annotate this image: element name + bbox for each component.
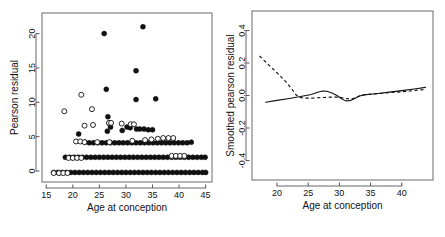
y-axis-tick-label: 20 [27, 29, 37, 39]
scatter-point-open [107, 140, 112, 145]
scatter-point-filled [150, 127, 155, 132]
scatter-point-filled [203, 155, 208, 160]
scatter-point-open [143, 138, 148, 143]
scatter-point-open [89, 107, 94, 112]
y-axis-tick-label: -0.2 [237, 120, 247, 136]
x-axis-tick-label: 35 [147, 190, 157, 200]
y-axis-tick-label: 15 [27, 63, 37, 73]
scatter-point-open [149, 137, 154, 142]
x-axis-tick-label: 20 [272, 188, 282, 198]
scatter-point-filled [105, 129, 110, 134]
scatter-point-open [62, 109, 67, 114]
y-axis-tick-label: 0.2 [237, 57, 247, 70]
scatter-point-filled [102, 31, 107, 36]
y-axis-tick-label: 0 [27, 169, 37, 174]
plot-frame [252, 11, 433, 180]
scatter-point-open [95, 140, 100, 145]
scatter-point-filled [134, 97, 139, 102]
scatter-point-open [82, 140, 87, 145]
scatter-point-open [166, 136, 171, 141]
y-axis-tick-label: 5 [27, 134, 37, 139]
scatter-point-open [131, 122, 136, 127]
curve-solid-smoother [266, 87, 426, 102]
scatter-point-open [171, 136, 176, 141]
y-axis-tick-label: 0.4 [237, 24, 247, 37]
y-axis-title: Smoothed pearson residual [225, 34, 236, 156]
figure-root: 15202530354045Age at conception05101520P… [0, 0, 445, 237]
scatter-series-filled [51, 24, 208, 175]
x-axis-tick-label: 40 [174, 190, 184, 200]
scatter-point-open [51, 171, 56, 176]
x-axis-tick-label: 40 [397, 188, 407, 198]
scatter-point-open [82, 123, 87, 128]
scatter-point-open [79, 155, 84, 160]
x-axis-tick-label: 45 [201, 190, 211, 200]
scatter-point-filled [203, 170, 208, 175]
scatter-point-filled [120, 128, 125, 133]
x-axis-tick-label: 30 [121, 190, 131, 200]
scatter-point-open [119, 121, 124, 126]
scatter-point-open [109, 120, 114, 125]
scatter-point-filled [140, 24, 145, 29]
scatter-point-filled [105, 114, 110, 119]
scatter-point-open [155, 136, 160, 141]
x-axis-title: Age at conception [87, 202, 167, 213]
scatter-point-open [65, 171, 70, 176]
x-axis-tick-label: 30 [334, 188, 344, 198]
scatter-point-open [182, 153, 187, 158]
scatter-point-filled [189, 140, 194, 145]
x-axis-tick-label: 15 [41, 190, 51, 200]
scatter-point-open [79, 92, 84, 97]
smoother-plot-svg: 2025303540Age at conception-0.4-0.20.00.… [222, 0, 445, 237]
x-axis-tick-label: 25 [303, 188, 313, 198]
x-axis-title: Age at conception [302, 200, 382, 211]
curve-dashed-smoother [259, 56, 424, 99]
x-axis-tick-label: 35 [366, 188, 376, 198]
scatter-plot-svg: 15202530354045Age at conception05101520P… [0, 0, 222, 237]
scatter-point-open [161, 136, 166, 141]
y-axis-tick-label: -0.4 [237, 153, 247, 169]
smoother-panel: 2025303540Age at conception-0.4-0.20.00.… [222, 0, 445, 237]
x-axis-tick-label: 25 [94, 190, 104, 200]
scatter-series-open [51, 92, 187, 175]
scatter-point-open [130, 138, 135, 143]
y-axis-tick-label: 0.0 [237, 89, 247, 102]
scatter-point-filled [134, 68, 139, 73]
y-axis-title: Pearson residual [9, 60, 20, 135]
scatter-panel: 15202530354045Age at conception05101520P… [0, 0, 222, 237]
scatter-point-filled [153, 96, 158, 101]
x-axis-tick-label: 20 [68, 190, 78, 200]
scatter-point-filled [76, 131, 81, 136]
scatter-point-filled [104, 87, 109, 92]
scatter-point-open [91, 122, 96, 127]
y-axis-tick-label: 10 [27, 97, 37, 107]
